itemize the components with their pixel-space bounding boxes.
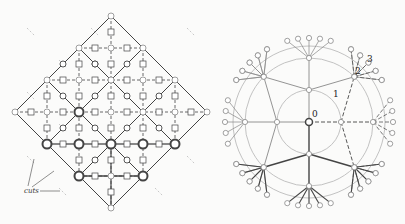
branch-2-3 [298, 39, 309, 58]
tree-node [225, 98, 230, 103]
branch-2-3 [264, 167, 267, 194]
tree-node [379, 77, 384, 82]
level-label-3: 3 [367, 54, 373, 64]
tree-node [223, 108, 228, 113]
figure: cuts 0123 [0, 0, 405, 224]
tree-node [373, 68, 378, 73]
tree-node [366, 179, 371, 184]
tree-node [306, 151, 311, 156]
branch-1-2 [341, 77, 354, 122]
tree-node [234, 161, 239, 166]
tree-node [306, 35, 311, 40]
tree-node [358, 53, 363, 58]
level-label-0: 0 [312, 109, 318, 119]
tree-node [348, 47, 353, 52]
tree-node [379, 161, 384, 166]
tree-node [370, 119, 375, 124]
tree-node [373, 171, 378, 176]
branch-1-2 [264, 77, 277, 122]
branch-2-3 [298, 186, 309, 205]
tree-node [223, 130, 228, 135]
tree-node [247, 179, 252, 184]
tree-node [255, 186, 260, 191]
tree-node [328, 38, 333, 43]
branch-2-3 [228, 100, 245, 122]
branch-2-3 [309, 186, 320, 205]
branch-2-3 [309, 41, 331, 58]
tree-node [285, 201, 290, 206]
tree-node [388, 141, 393, 146]
tree-node [225, 141, 230, 146]
tree-node [261, 165, 266, 170]
tree-node [240, 171, 245, 176]
branch-1-2 [264, 122, 277, 167]
tree-node [247, 60, 252, 65]
branch-2-3 [309, 39, 320, 58]
branch-2-3 [373, 100, 390, 122]
tree-node [388, 98, 393, 103]
branch-1-2 [264, 154, 309, 167]
branch-2-3 [287, 186, 309, 203]
tree-node [255, 53, 260, 58]
tree-node [274, 119, 279, 124]
tree-node [242, 119, 247, 124]
tree-node [352, 165, 357, 170]
tree-node [295, 36, 300, 41]
branch-2-3 [226, 122, 245, 133]
branch-1-2 [309, 77, 354, 90]
tree-node [390, 119, 395, 124]
branch-2-3 [236, 77, 263, 80]
tree-node [222, 119, 227, 124]
branch-2-3 [373, 111, 392, 122]
tree-node [390, 130, 395, 135]
tree-node [306, 203, 311, 208]
branch-2-3 [287, 41, 309, 58]
branch-2-3 [226, 111, 245, 122]
tree-node [390, 108, 395, 113]
radial-tree-diagram: 0123 [0, 0, 405, 224]
tree-node [358, 186, 363, 191]
level-label-1: 1 [333, 89, 339, 99]
tree-node [234, 77, 239, 82]
root-node [306, 119, 313, 126]
branch-1-2 [341, 122, 354, 167]
tree-node [264, 192, 269, 197]
branch-2-3 [373, 122, 390, 144]
branch-2-3 [236, 164, 263, 167]
tree-node [317, 36, 322, 41]
tree-node [261, 74, 266, 79]
tree-node [306, 55, 311, 60]
branch-1-2 [309, 154, 354, 167]
tree-node [317, 203, 322, 208]
tree-node [295, 203, 300, 208]
tree-node [264, 47, 269, 52]
branch-1-2 [264, 77, 309, 90]
tree-node [306, 183, 311, 188]
tree-node [306, 87, 311, 92]
branch-2-3 [264, 49, 267, 76]
tree-node [240, 68, 245, 73]
branch-2-3 [309, 186, 331, 203]
level-label-2: 2 [355, 66, 361, 76]
branch-2-3 [228, 122, 245, 144]
tree-node [348, 192, 353, 197]
tree-node [338, 119, 343, 124]
branch-2-3 [373, 122, 392, 133]
tree-node [328, 201, 333, 206]
tree-node [285, 38, 290, 43]
